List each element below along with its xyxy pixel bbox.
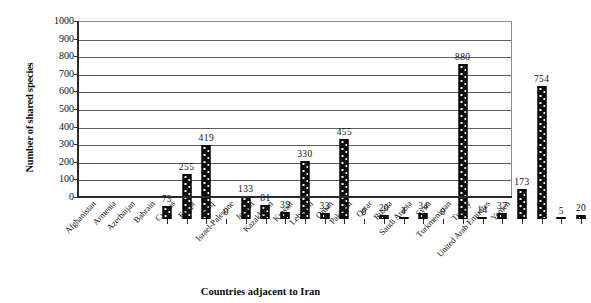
bar-slot: 0: [433, 43, 453, 219]
bar-value-label: 173: [514, 177, 529, 187]
bar-slot: 4: [394, 43, 414, 219]
y-axis-tick-label: 400: [0, 121, 74, 132]
bar-value-label: 255: [179, 162, 194, 172]
bar-value-label: 20: [576, 203, 586, 213]
bar-slot: 880: [453, 43, 473, 219]
bar-slot: 81: [256, 43, 276, 219]
x-axis-tick-mark: [581, 219, 582, 224]
bar-value-label: 133: [238, 184, 253, 194]
bar-slot: 173: [512, 43, 532, 219]
bars-group: 7325541901338139330334550204340880143717…: [157, 43, 591, 219]
bar-value-label: 330: [297, 149, 312, 159]
bar-slot: 754: [532, 43, 552, 219]
x-axis-line: [77, 196, 512, 198]
x-axis-category-label: Cyprus: [154, 200, 178, 225]
bar[interactable]: [537, 86, 546, 219]
bar-slot: 73: [157, 43, 177, 219]
plot-area: 7325541901338139330334550204340880143717…: [78, 21, 512, 197]
bar-value-label: 880: [455, 52, 470, 62]
x-axis-category-label-text: Yemen: [489, 199, 512, 223]
x-axis-category-label-text: Cyprus: [153, 199, 177, 224]
bar-slot: 33: [315, 43, 335, 219]
y-axis-tick-label: 500: [0, 103, 74, 114]
bar-slot: 14: [473, 43, 493, 219]
x-axis-category-label: Qatar: [355, 200, 375, 220]
x-axis-tick-mark: [542, 219, 543, 224]
bar-value-label: 455: [337, 127, 352, 137]
x-axis-category-label-text: Qatar: [354, 199, 374, 219]
gridline: [79, 40, 511, 41]
y-axis-tick-label: 900: [0, 33, 74, 44]
bar-value-label: 754: [534, 74, 549, 84]
bar-slot: 455: [335, 43, 355, 219]
y-axis-tick-label: 700: [0, 68, 74, 79]
y-axis-tick-label: 1000: [0, 15, 74, 26]
x-axis-category-label: Egypt: [177, 200, 198, 221]
bar-slot: 419: [196, 43, 216, 219]
bar-slot: 255: [177, 43, 197, 219]
y-axis-tick-labels: 10009008007006005004003002001000: [0, 21, 74, 197]
bar-slot: 37: [492, 43, 512, 219]
bar-value-label: 5: [559, 206, 564, 216]
y-axis-tick-label: 300: [0, 138, 74, 149]
x-axis-title: Countries adjacent to Iran: [0, 286, 521, 297]
bar-slot: 0: [216, 43, 236, 219]
x-axis-tick-mark: [561, 219, 562, 224]
x-axis-category-label: Yemen: [490, 200, 513, 224]
bar-slot: 5: [552, 43, 572, 219]
x-axis-category-labels: AfghanistanArmeniaAzerbaijanBahrainCypru…: [78, 200, 512, 278]
bar-slot: 34: [413, 43, 433, 219]
bar-slot: 0: [354, 43, 374, 219]
y-axis-tick-label: 600: [0, 85, 74, 96]
bar-slot: 20: [571, 43, 591, 219]
bar[interactable]: [517, 189, 526, 219]
y-axis-tick-label: 0: [0, 191, 74, 202]
y-axis-tick-label: 100: [0, 173, 74, 184]
x-axis-category-label-text: Egypt: [175, 199, 196, 220]
bar-slot: 133: [236, 43, 256, 219]
bar-slot: 20: [374, 43, 394, 219]
y-axis-tick-label: 800: [0, 50, 74, 61]
y-axis-tick-label: 200: [0, 156, 74, 167]
x-axis-tick-mark: [522, 219, 523, 224]
bar-slot: 330: [295, 43, 315, 219]
x-axis-category-label-text: Bahrain: [131, 199, 156, 225]
y-axis-line: [77, 21, 79, 198]
bar-value-label: 419: [199, 133, 214, 143]
bar-slot: 39: [275, 43, 295, 219]
